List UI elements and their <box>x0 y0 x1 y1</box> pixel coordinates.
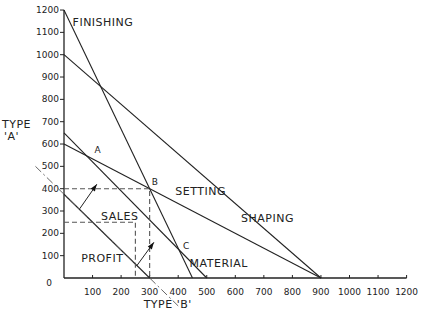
x-tick-label: 100 <box>84 287 101 297</box>
y-tick-label: 1000 <box>36 50 59 60</box>
y-tick-label: 100 <box>42 251 59 261</box>
annotation: PROFIT <box>81 252 123 265</box>
annotation: SALES <box>101 210 138 223</box>
y-tick-label: 900 <box>42 72 59 82</box>
x-tick-label: 400 <box>170 287 187 297</box>
y-tick-label: 600 <box>42 139 59 149</box>
annotation: MATERIAL <box>190 257 249 270</box>
x-tick-label: 300 <box>141 287 158 297</box>
origin-label: 0 <box>46 278 52 288</box>
y-tick-label: 1200 <box>36 5 59 15</box>
series-line <box>64 10 192 278</box>
linear-programming-chart: 1002003004005006007008009001000110012001… <box>0 0 428 317</box>
x-tick-label: 1000 <box>338 287 361 297</box>
vertex-label: C <box>183 241 189 251</box>
y-tick-label: 400 <box>42 184 59 194</box>
x-axis-label: TYPE 'B' <box>143 298 192 311</box>
series-line <box>64 55 321 278</box>
x-tick-label: 1200 <box>395 287 418 297</box>
x-tick-label: 1100 <box>367 287 390 297</box>
x-tick-label: 900 <box>312 287 329 297</box>
x-tick-label: 700 <box>255 287 272 297</box>
y-tick-label: 700 <box>42 117 59 127</box>
x-tick-label: 600 <box>227 287 244 297</box>
y-tick-label: 500 <box>42 161 59 171</box>
x-tick-label: 500 <box>198 287 215 297</box>
y-tick-label: 800 <box>42 94 59 104</box>
arrowhead-icon <box>91 184 97 191</box>
vertex-label: B <box>152 177 158 187</box>
annotation: FINISHING <box>73 16 134 29</box>
y-axis-label-2: 'A' <box>4 130 19 143</box>
y-tick-label: 1100 <box>36 27 59 37</box>
x-tick-label: 200 <box>113 287 130 297</box>
x-tick-label: 800 <box>284 287 301 297</box>
vertex-label: A <box>95 145 102 155</box>
y-tick-label: 200 <box>42 228 59 238</box>
y-tick-label: 300 <box>42 206 59 216</box>
series-line <box>64 222 135 278</box>
annotation: SHAPING <box>241 212 294 225</box>
annotation: SETTING <box>175 185 226 198</box>
arrowhead-icon <box>148 242 154 249</box>
